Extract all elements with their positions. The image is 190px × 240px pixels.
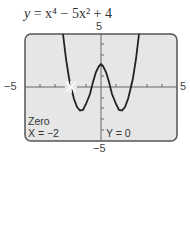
readout-y: Y = 0 — [106, 127, 131, 139]
readout-x: X = −2 — [28, 127, 59, 139]
trace-cursor-icon — [65, 81, 77, 93]
readout-mode: Zero — [28, 115, 50, 127]
